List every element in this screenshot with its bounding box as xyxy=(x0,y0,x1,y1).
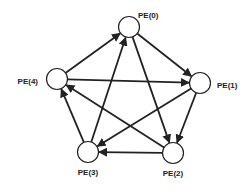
node-label-pe0: PE(0) xyxy=(138,11,159,20)
node-label-pe3: PE(3) xyxy=(78,168,99,177)
pe-graph-diagram: PE(0)PE(1)PE(2)PE(3)PE(4) xyxy=(0,0,250,192)
node-pe2 xyxy=(163,143,184,164)
edge-pe0-to-pe2 xyxy=(133,37,170,143)
edge-pe1-to-pe2 xyxy=(177,93,196,143)
edge-pe4-to-pe0 xyxy=(66,33,121,73)
edge-pe2-to-pe4 xyxy=(66,85,164,147)
node-label-pe1: PE(1) xyxy=(217,81,238,90)
edge-pe3-to-pe4 xyxy=(61,89,84,142)
node-label-pe4: PE(4) xyxy=(18,77,39,86)
edge-pe3-to-pe0 xyxy=(91,38,125,143)
edge-pe2-to-pe3 xyxy=(99,152,163,153)
node-pe0 xyxy=(119,17,140,38)
node-pe1 xyxy=(190,73,211,94)
node-label-pe2: PE(2) xyxy=(163,169,184,178)
edges-group xyxy=(61,33,196,152)
edge-pe1-to-pe3 xyxy=(97,89,191,147)
node-pe3 xyxy=(78,142,99,163)
node-pe4 xyxy=(47,69,68,90)
edge-pe4-to-pe1 xyxy=(68,79,190,82)
edge-pe0-to-pe1 xyxy=(137,34,191,77)
